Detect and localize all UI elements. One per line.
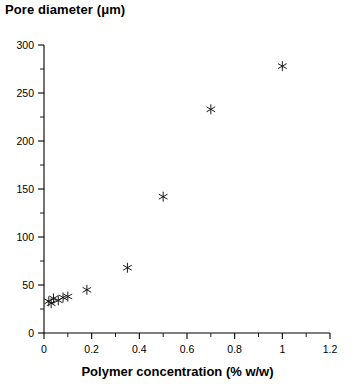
x-axis-title: Polymer concentration (% w/w) <box>0 364 355 379</box>
data-point <box>123 263 132 273</box>
y-tick-label: 100 <box>16 231 34 243</box>
x-tick-label: 0.8 <box>227 343 242 355</box>
data-point <box>207 104 216 114</box>
x-tick-label: 1 <box>279 343 285 355</box>
y-tick-label: 50 <box>22 279 34 291</box>
data-point <box>83 285 92 295</box>
x-axis-ticks: 00.20.40.60.811.2 <box>41 333 337 355</box>
x-tick-label: 0.4 <box>132 343 147 355</box>
y-tick-label: 150 <box>16 183 34 195</box>
data-point <box>278 61 287 71</box>
x-tick-label: 1.2 <box>323 343 338 355</box>
scatter-chart: Pore diameter (μm) 050100150200250300 00… <box>0 0 355 389</box>
y-tick-label: 250 <box>16 87 34 99</box>
plot-area: 050100150200250300 00.20.40.60.811.2 <box>0 0 355 389</box>
x-tick-label: 0.2 <box>84 343 99 355</box>
data-points <box>44 61 286 308</box>
y-tick-label: 0 <box>28 327 34 339</box>
y-tick-label: 200 <box>16 135 34 147</box>
data-point <box>159 192 168 202</box>
y-axis-ticks: 050100150200250300 <box>16 39 44 339</box>
x-tick-label: 0 <box>41 343 47 355</box>
y-tick-label: 300 <box>16 39 34 51</box>
x-tick-label: 0.6 <box>180 343 195 355</box>
